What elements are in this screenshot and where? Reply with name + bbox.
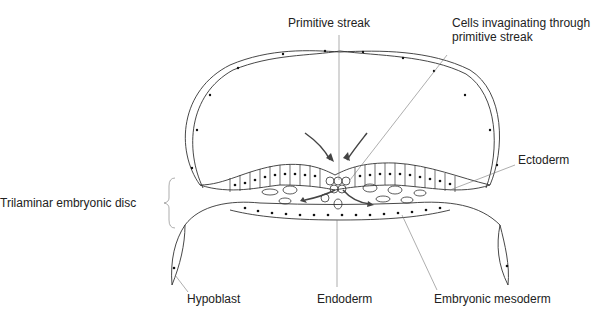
label-hypoblast: Hypoblast [187, 292, 240, 306]
label-endoderm: Endoderm [317, 292, 372, 306]
amnion-inner [193, 51, 495, 188]
amnion-outer [185, 51, 499, 185]
label-ectoderm: Ectoderm [518, 153, 569, 167]
ectoderm-top [200, 163, 490, 185]
hypoblast-left [172, 225, 185, 285]
label-primitive-streak: Primitive streak [288, 16, 370, 30]
label-cells-invaginating-line2: primitive streak [452, 30, 590, 44]
label-embryonic-mesoderm: Embryonic mesoderm [434, 292, 551, 306]
label-trilaminar-disc: Trilaminar embryonic disc [0, 196, 136, 210]
endoderm-bottom [230, 210, 450, 220]
endoderm-top [185, 202, 500, 225]
label-cells-invaginating-line1: Cells invaginating through [452, 16, 590, 30]
hypoblast-right [498, 225, 508, 285]
ectoderm-bottom [200, 185, 490, 190]
label-cells-invaginating: Cells invaginating through primitive str… [452, 16, 590, 44]
